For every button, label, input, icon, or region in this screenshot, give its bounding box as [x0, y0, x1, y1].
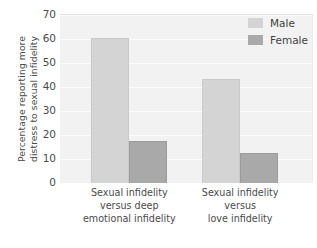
- y-axis-tick-20: 20: [43, 128, 56, 140]
- legend-item-female[interactable]: Female: [248, 34, 308, 46]
- bar-chart: Percentage reporting more distress to se…: [0, 0, 317, 248]
- y-axis-title-line-1: Percentage reporting more: [16, 36, 28, 162]
- y-axis-tick-10: 10: [43, 152, 56, 164]
- bar-female-group-1[interactable]: [129, 141, 167, 183]
- x-axis-category-labels: Sexual infidelityversus deepemotional in…: [60, 186, 312, 242]
- x-axis-label-group-2: Sexual infidelityversuslove infidelity: [175, 186, 305, 225]
- legend-item-male[interactable]: Male: [248, 17, 308, 29]
- x-axis-label-group-2-line-2: versus: [224, 199, 256, 212]
- legend-swatch-male-icon: [248, 18, 263, 28]
- legend-label-female: Female: [270, 34, 308, 46]
- bar-male-group-2[interactable]: [202, 79, 240, 183]
- x-axis-label-group-1-line-3: emotional infidelity: [83, 212, 176, 225]
- y-axis-tick-30: 30: [43, 104, 56, 116]
- bar-group-2: [202, 79, 278, 183]
- y-axis-tick-70: 70: [43, 8, 56, 20]
- bar-male-group-1[interactable]: [91, 38, 129, 183]
- y-axis-tick-50: 50: [43, 56, 56, 68]
- legend-swatch-female-icon: [248, 35, 263, 45]
- gridline-70: [60, 15, 312, 16]
- x-axis-label-group-1-line-1: Sexual infidelity: [91, 186, 168, 199]
- y-axis-tick-labels: 010203040506070: [30, 14, 56, 182]
- x-axis-label-group-2-line-3: love infidelity: [208, 212, 273, 225]
- chart-legend: MaleFemale: [248, 17, 308, 46]
- y-axis-tick-0: 0: [49, 176, 56, 188]
- y-axis-tick-60: 60: [43, 32, 56, 44]
- x-axis-label-group-1-line-2: versus deep: [100, 199, 159, 212]
- x-axis-label-group-2-line-1: Sexual infidelity: [202, 186, 279, 199]
- y-axis-tick-40: 40: [43, 80, 56, 92]
- legend-label-male: Male: [270, 17, 295, 29]
- bar-group-1: [91, 38, 167, 183]
- bar-female-group-2[interactable]: [240, 153, 278, 183]
